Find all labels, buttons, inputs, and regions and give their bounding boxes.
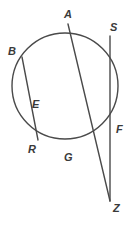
vertex-label-a: A xyxy=(64,9,72,20)
vertex-label-z: Z xyxy=(113,203,120,214)
vertex-label-b: B xyxy=(8,46,16,57)
vertex-label-g: G xyxy=(64,152,73,163)
vertex-label-s: S xyxy=(110,22,117,33)
vertex-label-e: E xyxy=(32,99,39,110)
geometry-diagram: A B S E F R G Z xyxy=(0,0,135,228)
geometry-canvas xyxy=(0,0,135,228)
vertex-label-f: F xyxy=(116,124,123,135)
vertex-label-r: R xyxy=(28,144,36,155)
